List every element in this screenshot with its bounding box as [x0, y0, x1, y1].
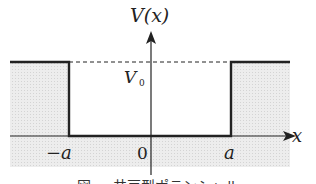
- tick-label-origin: 0: [137, 143, 148, 163]
- tick-label-a: a: [224, 142, 235, 163]
- figure-caption: 図 ... 井戸型ポテンシャル: [77, 178, 239, 184]
- x-axis-label: x: [292, 125, 302, 146]
- tick-label-minus-a: −a: [46, 142, 72, 163]
- square-well-diagram: V(x) x V 0 −a 0 a 図 ... 井戸型ポテンシャル: [0, 0, 316, 184]
- y-axis-label: V(x): [130, 4, 169, 26]
- v0-subscript: 0: [139, 78, 145, 88]
- v0-label: V: [124, 67, 138, 87]
- bottom-shade: [69, 137, 231, 167]
- right-barrier-shade: [231, 62, 290, 167]
